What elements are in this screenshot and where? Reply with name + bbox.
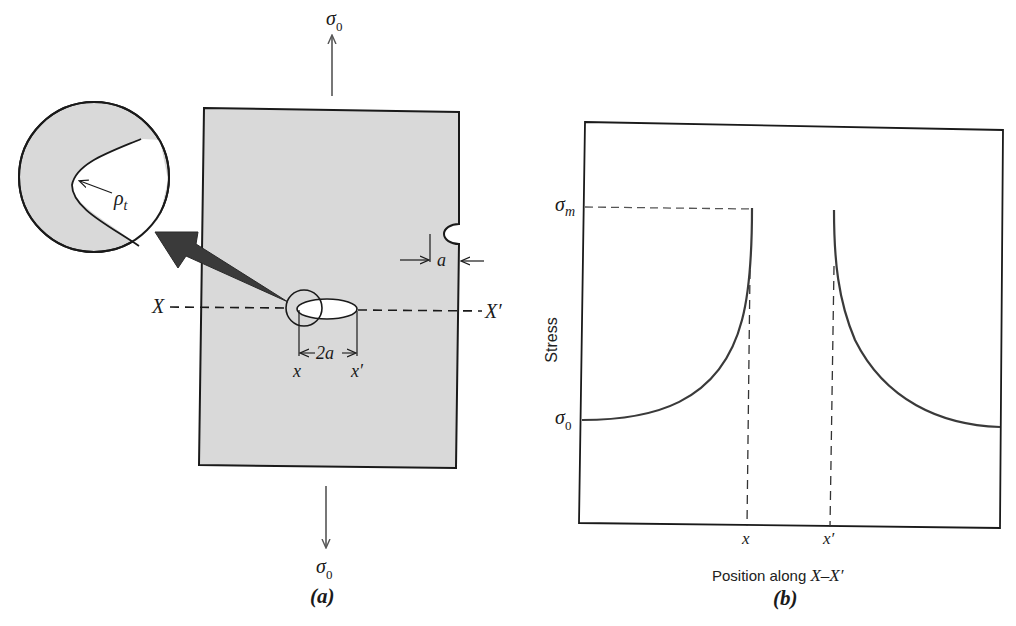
svg-text:σ0: σ0 <box>316 555 332 582</box>
svg-text:a: a <box>437 250 446 270</box>
y-tick-sigma-m: σm <box>555 193 575 219</box>
svg-text:X′: X′ <box>484 300 502 322</box>
applied-stress-top: σ0 <box>326 7 342 96</box>
crack-tip-magnified-view: ρt <box>19 102 169 252</box>
x-guide <box>747 270 750 526</box>
x-prime-guide <box>830 266 834 527</box>
svg-text:2a: 2a <box>316 343 334 363</box>
y-tick-sigma-0: σ0 <box>555 406 571 433</box>
caption-a: (a) <box>310 584 335 608</box>
svg-text:x: x <box>292 361 301 381</box>
panel-a: σ0 a X X′ 2a x <box>19 7 502 608</box>
y-axis-label: Stress <box>543 317 560 362</box>
svg-text:X: X <box>151 295 165 317</box>
sigma-m-guide <box>585 207 752 209</box>
applied-stress-bottom: σ0 <box>316 486 332 582</box>
plate <box>199 108 459 468</box>
x-tick-x-prime: x′ <box>822 529 835 548</box>
svg-text:x′: x′ <box>350 361 364 381</box>
panel-b: Stress σm σ0 x x′ Position along X–X′ (b… <box>543 122 1003 610</box>
x-tick-x: x <box>741 529 750 548</box>
stress-curve-left <box>582 208 752 420</box>
caption-b: (b) <box>773 586 798 610</box>
svg-text:σ0: σ0 <box>326 7 342 34</box>
plot-frame <box>579 122 1003 528</box>
internal-crack <box>297 299 357 319</box>
x-axis-label: Position along X–X′ <box>712 566 844 585</box>
stress-curve-right <box>834 210 1000 427</box>
